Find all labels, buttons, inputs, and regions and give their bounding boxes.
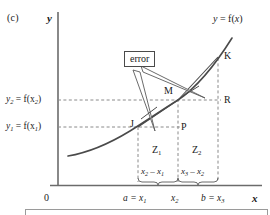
- x1-lead: a = x: [123, 193, 143, 203]
- span2-a-sub: 3: [185, 171, 188, 177]
- y1-eq: =: [13, 121, 23, 131]
- span2-op: –: [188, 166, 197, 176]
- span1-op: –: [148, 166, 157, 176]
- zone-label-z2: Z2: [192, 145, 202, 155]
- y2-rhs-base: f(x: [24, 94, 35, 104]
- x3-sub: 3: [221, 197, 224, 204]
- y-tick-label-y2: y2 = f(x2): [6, 95, 41, 105]
- chord-segment-jm: [138, 100, 178, 127]
- panel-label: (c): [7, 13, 19, 23]
- y1-rhs-base: f(x: [24, 121, 35, 131]
- x1-sub: 1: [143, 197, 146, 204]
- y1-rhs-sub: 1: [35, 125, 38, 132]
- curve-eq-close: ): [239, 13, 242, 24]
- curve-eq-f: = f(: [217, 13, 234, 24]
- figure-container: (c) y x 0 y = f(x) y2 = f(x2) y1 = f(x1)…: [0, 0, 270, 215]
- y1-sub: 1: [10, 125, 13, 132]
- chord-segment-mk: [178, 57, 218, 100]
- y2-rhs-sub: 2: [35, 98, 38, 105]
- y2-sub: 2: [10, 98, 13, 105]
- figure-graphics: [0, 0, 270, 215]
- brace-span-2: [178, 178, 218, 185]
- point-label-j: J: [130, 119, 134, 129]
- x-tick-label-x2: x2: [171, 194, 178, 204]
- point-label-k: K: [224, 51, 231, 61]
- y1-rhs-close: ): [38, 121, 41, 131]
- span1-b-sub: 1: [161, 171, 164, 177]
- span2-b-sub: 2: [201, 171, 204, 177]
- z1-sub: 1: [158, 149, 161, 156]
- point-label-p: P: [181, 122, 187, 132]
- z2-sub: 2: [198, 149, 201, 156]
- error-annotation-box: error: [124, 51, 155, 67]
- point-label-m: M: [164, 86, 173, 96]
- x-tick-label-x3: b = x3: [201, 194, 224, 204]
- curve-equation-label: y = f(x): [213, 14, 243, 24]
- y2-rhs-close: ): [38, 94, 41, 104]
- origin-label: 0: [44, 193, 49, 203]
- y-axis-label: y: [47, 13, 52, 24]
- x2-sub: 2: [175, 197, 178, 204]
- brace-span-1: [138, 178, 178, 185]
- span1-a-sub: 2: [145, 171, 148, 177]
- figure-bottom-frame: [25, 209, 268, 215]
- point-label-r: R: [224, 95, 231, 105]
- zone-label-z1: Z1: [152, 145, 162, 155]
- y2-eq: =: [13, 94, 23, 104]
- span-label-1: x2 – x1: [141, 167, 164, 176]
- x3-lead: b = x: [201, 193, 221, 203]
- span-label-2: x3 – x2: [181, 167, 204, 176]
- y-tick-label-y1: y1 = f(x1): [6, 122, 41, 132]
- x-axis-label: x: [252, 193, 258, 204]
- x-tick-label-x1: a = x1: [123, 194, 146, 204]
